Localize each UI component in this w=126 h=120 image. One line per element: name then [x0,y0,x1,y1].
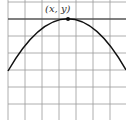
vertex-point [66,17,70,21]
parabola-curve [8,19,126,71]
vertex-label: (x, y) [45,3,70,14]
parabola-graph [0,0,126,120]
